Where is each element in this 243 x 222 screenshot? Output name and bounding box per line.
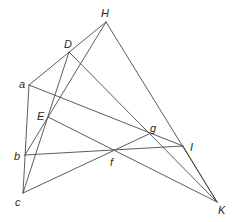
diagram-canvas: HDaEbcfgIK <box>0 0 243 222</box>
segment-D-K <box>69 52 217 202</box>
point-label-a: a <box>19 78 25 90</box>
point-label-H: H <box>101 7 109 19</box>
geometry-diagram: HDaEbcfgIK <box>0 0 243 222</box>
segment-H-a <box>29 22 106 85</box>
point-label-E: E <box>37 110 45 122</box>
line-segments <box>23 22 217 202</box>
point-label-I: I <box>190 141 193 153</box>
segment-c-g <box>23 134 149 193</box>
point-label-g: g <box>150 122 157 134</box>
point-label-D: D <box>64 38 72 50</box>
point-label-f: f <box>110 156 114 168</box>
point-labels: HDaEbcfgIK <box>14 7 226 216</box>
point-label-K: K <box>218 204 226 216</box>
point-label-b: b <box>14 150 20 162</box>
segment-a-I <box>29 85 183 146</box>
segment-D-c <box>23 52 69 193</box>
point-label-c: c <box>15 196 21 208</box>
segment-b-I <box>25 146 183 155</box>
